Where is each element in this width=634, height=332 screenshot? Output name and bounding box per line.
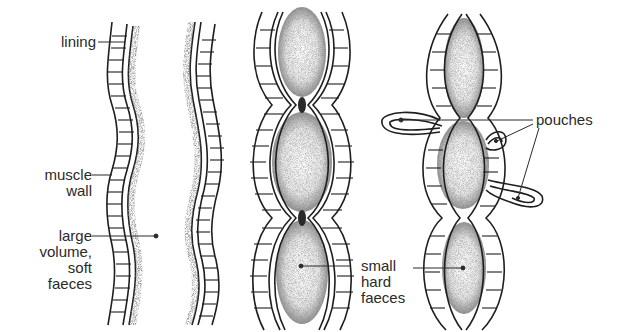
label-small-hard-faeces: small hard faeces [361, 258, 405, 306]
label-muscle-wall: muscle wall [10, 167, 92, 199]
label-large-volume-soft-faeces: large volume, soft faeces [6, 228, 92, 292]
colon-diagram: lining muscle wall large volume, soft fa… [0, 0, 634, 332]
panel-3-colon [250, 7, 354, 330]
panel-4-colon [382, 14, 543, 330]
label-lining: lining [30, 34, 96, 50]
label-pouches: pouches [536, 112, 593, 128]
soft-faeces-edge-left [128, 26, 146, 325]
soft-faeces-edge-right [183, 22, 201, 325]
